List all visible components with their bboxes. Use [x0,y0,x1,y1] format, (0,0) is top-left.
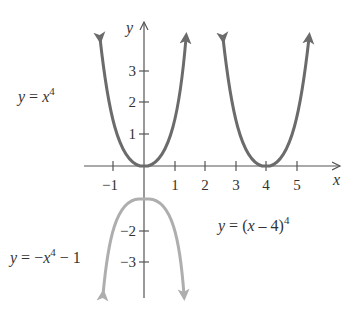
label-y-equals-neg-x4-minus-1: y = −x4 − 1 [8,246,81,267]
x-tick-label: 3 [232,177,240,193]
y-tick-label: 1 [129,126,137,142]
x-tick-label: 4 [262,177,270,193]
function-graph: −1 1 2 3 4 5 3 2 1 −2 −3 y x y = x4 y = … [0,0,360,314]
y-tick-label: −2 [120,223,136,239]
curve-x-minus-4-power-4 [223,38,309,166]
label-y-equals-x4: y = x4 [16,85,55,106]
x-tick-labels: −1 1 2 3 4 5 [102,177,301,193]
y-tick-label: −3 [120,254,136,270]
y-tick-label: 2 [129,94,137,110]
x-tick-label: 1 [171,177,179,193]
x-tick-label: 5 [293,177,301,193]
x-axis-label: x [332,171,340,188]
label-y-equals-x-minus-4-power-4: y = (x – 4)4 [216,214,290,235]
x-tick-label: 2 [201,177,209,193]
y-tick-label: 3 [129,63,137,79]
x-tick-label: −1 [102,177,118,193]
y-axis-label: y [124,19,134,37]
